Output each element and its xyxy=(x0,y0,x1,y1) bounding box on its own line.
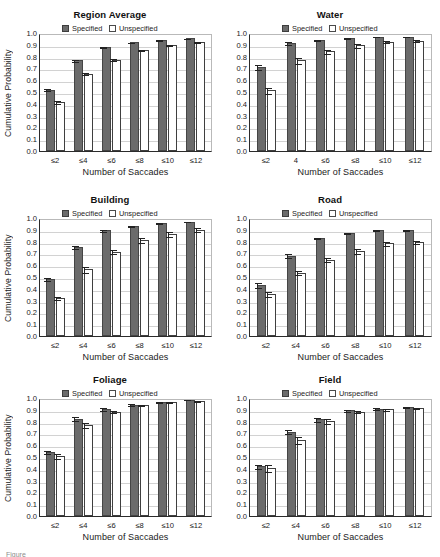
bar-group xyxy=(153,400,181,516)
y-tick-label: 0.5 xyxy=(236,454,247,462)
y-tick-label: 0.6 xyxy=(236,77,247,85)
y-tick-label: 0.2 xyxy=(26,125,37,133)
legend-swatch-unspecified xyxy=(329,210,336,217)
bar-group xyxy=(282,220,312,336)
bar-group xyxy=(400,400,430,516)
caption-strip: Figure xyxy=(0,550,440,557)
error-bar xyxy=(326,419,334,426)
y-tick-label: 0.5 xyxy=(26,89,37,97)
y-tick-label: 0.7 xyxy=(236,431,247,439)
y-tick-label: 0.7 xyxy=(236,66,247,74)
error-bar xyxy=(158,40,166,41)
x-tick-label: ≤10 xyxy=(154,518,182,532)
y-tick-label: 0.7 xyxy=(26,431,37,439)
x-tick-label: ≤10 xyxy=(370,518,400,532)
bar-groups xyxy=(250,220,431,336)
bar-group xyxy=(125,400,153,516)
bar-unspecified xyxy=(267,468,276,516)
bar-group xyxy=(70,220,98,336)
x-tick-label: ≤8 xyxy=(340,338,370,352)
y-tick-label: 0.1 xyxy=(26,136,37,144)
error-bar xyxy=(297,271,305,276)
axes-box xyxy=(39,219,212,337)
chart-legend: SpecifiedUnspecified xyxy=(220,387,440,399)
bar-group xyxy=(311,400,341,516)
y-tick-label: 1.0 xyxy=(236,395,247,403)
legend-swatch-specified xyxy=(62,390,69,397)
bar-specified xyxy=(316,40,325,151)
x-tick-label: ≤10 xyxy=(370,153,400,167)
bar-specified xyxy=(158,40,167,151)
x-axis-label: Number of Saccades xyxy=(39,532,212,542)
x-tick-label: ≤4 xyxy=(69,518,97,532)
bar-group xyxy=(125,35,153,151)
error-bar xyxy=(74,417,82,422)
bar-unspecified xyxy=(168,234,177,336)
bar-unspecified xyxy=(326,51,335,151)
bar-unspecified xyxy=(297,440,306,516)
error-bar xyxy=(74,246,82,250)
y-tick-label: 0.8 xyxy=(26,239,37,247)
y-axis-ticks: 1.00.90.80.70.60.50.40.30.20.10.0 xyxy=(16,34,38,152)
error-bar xyxy=(346,233,354,235)
y-tick-label: 0.3 xyxy=(236,478,247,486)
y-tick-label: 0.7 xyxy=(236,251,247,259)
error-bar xyxy=(326,50,334,55)
error-bar xyxy=(56,454,64,460)
x-tick-label: ≤8 xyxy=(340,518,370,532)
bar-specified xyxy=(186,38,195,151)
bar-unspecified xyxy=(140,405,149,516)
x-tick-label: ≤8 xyxy=(126,518,154,532)
y-tick-label: 1.0 xyxy=(236,215,247,223)
legend-swatch-unspecified xyxy=(109,25,116,32)
bar-unspecified xyxy=(112,60,121,151)
bar-specified xyxy=(186,222,195,336)
error-bar xyxy=(356,411,364,415)
bar-group xyxy=(370,220,400,336)
x-tick-label: ≤2 xyxy=(251,153,281,167)
x-tick-label: ≤4 xyxy=(281,518,311,532)
y-tick-label: 0.4 xyxy=(26,286,37,294)
error-bar xyxy=(158,402,166,404)
legend-entry-specified: Specified xyxy=(62,209,102,218)
legend-entry-unspecified: Unspecified xyxy=(109,209,157,218)
plot-area: 1.00.90.80.70.60.50.40.30.20.10.0≤24≤6≤8… xyxy=(220,34,440,160)
error-bar xyxy=(74,60,82,63)
x-tick-label: ≤8 xyxy=(340,153,370,167)
axes-box xyxy=(249,399,432,517)
bar-specified xyxy=(46,279,55,336)
legend-label: Unspecified xyxy=(339,389,378,398)
legend-entry-unspecified: Unspecified xyxy=(329,389,377,398)
error-bar xyxy=(316,40,324,42)
axes-box xyxy=(39,399,212,517)
bar-specified xyxy=(405,230,414,336)
error-bar xyxy=(46,451,54,455)
axes-box xyxy=(39,34,212,152)
error-bar xyxy=(140,238,148,244)
bar-unspecified xyxy=(112,412,121,516)
chart-title: Field xyxy=(220,365,440,387)
y-tick-label: 0.0 xyxy=(236,148,247,156)
bar-specified xyxy=(130,405,139,517)
bar-specified xyxy=(257,285,266,336)
x-axis-ticks: ≤2≤4≤6≤8≤10≤12 xyxy=(39,518,212,532)
bar-unspecified xyxy=(56,298,65,336)
bar-specified xyxy=(257,67,266,151)
error-bar xyxy=(257,65,265,71)
error-bar xyxy=(267,465,275,473)
plot-area: Cumulative Probability1.00.90.80.70.60.5… xyxy=(0,34,220,160)
y-tick-label: 0.4 xyxy=(26,466,37,474)
y-tick-label: 0.0 xyxy=(26,333,37,341)
y-axis-label: Cumulative Probability xyxy=(2,399,14,517)
y-tick-label: 0.1 xyxy=(236,501,247,509)
error-bar xyxy=(84,73,92,77)
bar-group xyxy=(153,35,181,151)
error-bar xyxy=(46,89,54,92)
bar-specified xyxy=(102,47,111,151)
y-tick-label: 1.0 xyxy=(26,215,37,223)
y-tick-label: 0.5 xyxy=(236,274,247,282)
legend-swatch-unspecified xyxy=(329,25,336,32)
error-bar xyxy=(405,37,413,38)
bar-specified xyxy=(74,419,83,516)
y-axis-label: Cumulative Probability xyxy=(2,34,14,152)
